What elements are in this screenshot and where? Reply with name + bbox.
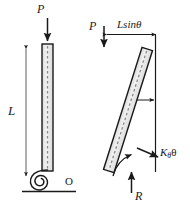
left-length-label-L: L: [8, 104, 15, 117]
left-pivot-label-O: O: [65, 176, 73, 187]
lsin-theta-label: Lsinθ: [117, 19, 141, 30]
right-load-label-P: P: [89, 20, 96, 32]
left-figure-group: [22, 18, 76, 192]
spring-moment-label-theta: θ: [171, 146, 176, 158]
spring-moment-label: Kθθ: [160, 147, 177, 160]
left-load-label-P: P: [37, 3, 44, 15]
physics-diagram: P L O P Lsinθ Kθθ R: [0, 0, 190, 209]
spring-moment-arrow: [137, 148, 158, 157]
reaction-label-R: R: [135, 190, 142, 202]
left-spiral-torsion-spring: [30, 170, 47, 190]
right-figure-group: [104, 26, 158, 193]
